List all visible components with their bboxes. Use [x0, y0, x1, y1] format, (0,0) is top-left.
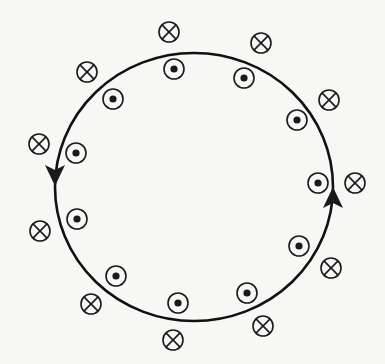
diagram-canvas	[0, 0, 385, 364]
field-out-of-page-icon	[287, 110, 307, 130]
field-into-page-icon	[321, 258, 341, 278]
magnetic-field-loop-diagram	[0, 0, 385, 364]
field-into-page-icon	[77, 62, 97, 82]
field-into-page-icon	[251, 33, 271, 53]
field-into-page-icon	[163, 330, 183, 350]
field-out-of-page-icon	[106, 266, 126, 286]
field-out-of-page-icon	[67, 209, 87, 229]
field-out-of-page-icon	[168, 293, 188, 313]
field-out-of-page-icon	[289, 236, 309, 256]
field-out-of-page-icon	[164, 59, 184, 79]
field-into-page-icon	[253, 316, 273, 336]
field-into-page-icon	[81, 294, 101, 314]
field-into-page-icon	[345, 173, 365, 193]
field-out-of-page-icon	[237, 283, 257, 303]
field-into-page-icon	[319, 90, 339, 110]
field-out-of-page-icon	[66, 143, 86, 163]
field-out-of-page-icon	[234, 68, 254, 88]
field-into-page-icon	[159, 22, 179, 42]
current-loop	[55, 53, 333, 321]
field-out-of-page-icon	[308, 173, 328, 193]
field-into-page-icon	[30, 221, 50, 241]
field-out-of-page-icon	[103, 89, 123, 109]
field-into-page-icon	[29, 134, 49, 154]
arrow-down-left-icon	[45, 165, 65, 186]
